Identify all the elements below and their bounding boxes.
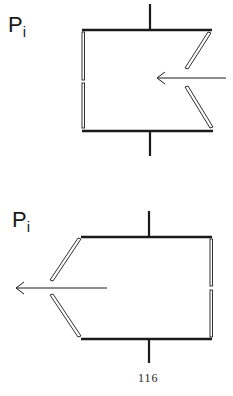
figure-2	[16, 211, 213, 363]
figure-1	[82, 4, 226, 156]
diagram-canvas	[0, 0, 233, 396]
page-number: 116	[138, 371, 159, 386]
